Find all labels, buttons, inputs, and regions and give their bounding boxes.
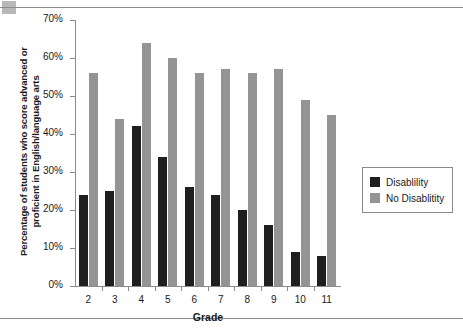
- bar: [115, 119, 124, 286]
- x-axis-tick-label: 3: [102, 294, 128, 305]
- x-axis-tick: [287, 286, 288, 291]
- y-axis-tick: 40%: [70, 134, 75, 135]
- bar: [221, 69, 230, 286]
- x-axis-tick: [155, 286, 156, 291]
- x-axis-tick: [102, 286, 103, 291]
- x-axis-tick: [208, 286, 209, 291]
- x-axis-tick: [128, 286, 129, 291]
- y-axis-tick: 60%: [70, 58, 75, 59]
- legend-swatch-icon-disability: [370, 177, 380, 187]
- y-axis-tick-label: 60%: [43, 51, 63, 62]
- bar: [168, 58, 177, 286]
- bar: [301, 100, 310, 286]
- bar: [89, 73, 98, 286]
- y-axis-tick-label: 30%: [43, 165, 63, 176]
- y-axis-tick-label: 50%: [43, 89, 63, 100]
- bar: [238, 210, 247, 286]
- bar: [79, 195, 88, 286]
- top-divider: [0, 7, 463, 8]
- x-axis-tick-label: 11: [314, 294, 340, 305]
- legend-item-no-disability: No Disablitity: [370, 190, 444, 206]
- x-axis-tick-label: 6: [181, 294, 207, 305]
- y-axis-tick: 10%: [70, 248, 75, 249]
- bar: [317, 256, 326, 286]
- y-axis-tick: 70%: [70, 20, 75, 21]
- y-axis-tick-label: 70%: [43, 13, 63, 24]
- bar: [274, 69, 283, 286]
- legend-label-no-disability: No Disablitity: [386, 193, 444, 204]
- legend-label-disability: Disablility: [386, 177, 428, 188]
- bar: [264, 225, 273, 286]
- y-axis-tick: 20%: [70, 210, 75, 211]
- y-axis-tick: 50%: [70, 96, 75, 97]
- bar: [291, 252, 300, 286]
- x-axis-tick: [181, 286, 182, 291]
- x-axis-tick-label: 5: [155, 294, 181, 305]
- x-axis-tick-label: 2: [75, 294, 101, 305]
- bar: [248, 73, 257, 286]
- y-axis-tick: 0%: [70, 286, 75, 287]
- bar: [132, 126, 141, 286]
- y-axis-tick-label: 40%: [43, 127, 63, 138]
- x-axis-title: Grade: [75, 311, 341, 323]
- bar: [185, 187, 194, 286]
- figure-page: Percentage of students who score advance…: [0, 0, 463, 335]
- y-axis-tick-label: 20%: [43, 203, 63, 214]
- x-axis-tick: [261, 286, 262, 291]
- x-axis-tick: [234, 286, 235, 291]
- chart-legend: Disablility No Disablitity: [362, 167, 453, 213]
- y-axis-title-line-2: proficient in English/language arts: [29, 27, 41, 277]
- plot-area: 0%10%20%30%40%50%60%70% 234567891011: [75, 20, 340, 286]
- y-axis-title-line-1: Percentage of students who score advance…: [18, 27, 30, 277]
- x-axis-tick-label: 10: [287, 294, 313, 305]
- y-axis-title: Percentage of students who score advance…: [18, 27, 41, 277]
- bar: [211, 195, 220, 286]
- y-axis-line: [75, 20, 76, 287]
- x-axis-tick: [314, 286, 315, 291]
- bar: [158, 157, 167, 286]
- bar: [142, 43, 151, 286]
- x-axis-tick-label: 7: [208, 294, 234, 305]
- legend-swatch-icon-no-disability: [370, 193, 380, 203]
- bar: [195, 73, 204, 286]
- y-axis-tick-label: 0%: [49, 279, 63, 290]
- legend-item-disability: Disablility: [370, 174, 444, 190]
- x-axis-tick-label: 8: [234, 294, 260, 305]
- bar: [327, 115, 336, 286]
- bar-chart: Percentage of students who score advance…: [0, 12, 463, 312]
- bar: [105, 191, 114, 286]
- x-axis-tick-label: 9: [261, 294, 287, 305]
- y-axis-tick-label: 10%: [43, 241, 63, 252]
- y-axis-tick: 30%: [70, 172, 75, 173]
- x-axis-tick-label: 4: [128, 294, 154, 305]
